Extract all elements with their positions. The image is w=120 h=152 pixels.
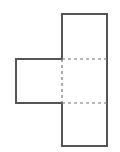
- net-diagram: [0, 0, 120, 152]
